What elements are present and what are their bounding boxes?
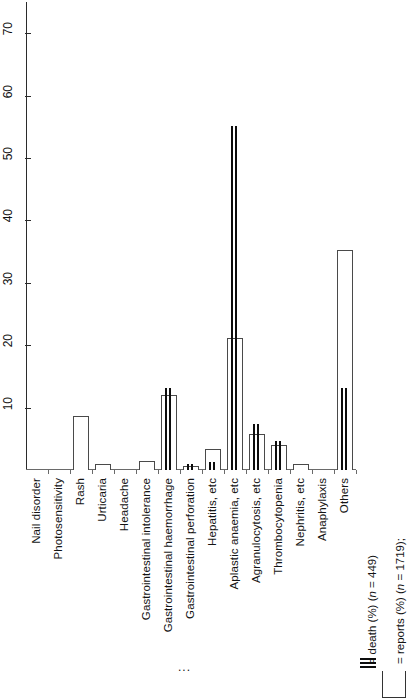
- bar-slot-7: [180, 2, 202, 470]
- bar-slot-12: [290, 2, 312, 470]
- category-tick-0: [48, 470, 49, 474]
- bar-slot-3: [92, 2, 114, 470]
- bar-death-14-d1: [341, 388, 343, 470]
- bar-slot-2: [70, 2, 92, 470]
- chart-legend: = reports (%) (n = 1719); = death (%) (n…: [354, 300, 412, 664]
- bar-slot-11: [268, 2, 290, 470]
- bar-death-14-d2: [345, 388, 347, 470]
- category-label-14: Others: [339, 478, 351, 513]
- category-label-10: Agranulocytosis, etc: [251, 478, 263, 583]
- bar-slot-9: [224, 2, 246, 470]
- category-label-4: Headache: [119, 478, 131, 531]
- category-tick-1: [70, 470, 71, 474]
- value-tick-label-20: 20: [2, 334, 22, 347]
- category-tick-2: [92, 470, 93, 474]
- category-label-11: Thrombocytopenia: [273, 478, 285, 575]
- category-tick-3: [114, 470, 115, 474]
- bar-slot-4: [114, 2, 136, 470]
- bar-slot-14: [334, 2, 356, 470]
- bar-death-10-d1: [253, 424, 255, 470]
- category-tick-12: [312, 470, 313, 474]
- category-label-7: Gastrointestinal perforation: [185, 478, 197, 619]
- category-label-13: Anaphylaxis: [317, 478, 329, 541]
- legend-entry-reports: = reports (%) (n = 1719);: [395, 538, 407, 664]
- category-label-3: Urticaria: [97, 478, 109, 522]
- bar-slot-6: [158, 2, 180, 470]
- bar-death-7-d2: [191, 464, 193, 470]
- value-tick-label-30: 30: [2, 272, 22, 285]
- category-label-6: Gastrointestinal haemorrhage: [163, 478, 175, 632]
- value-tick-label-60: 60: [2, 85, 22, 98]
- bar-reports-5: [139, 461, 156, 470]
- category-label-2: Rash: [75, 478, 87, 505]
- category-tick-6: [180, 470, 181, 474]
- category-label-12: Nephritis, etc: [295, 478, 307, 547]
- bar-slot-5: [136, 2, 158, 470]
- bar-reports-12: [293, 464, 310, 470]
- plot-area: 10203040506070: [26, 2, 356, 470]
- legend-swatch-double-line-icon: [360, 658, 376, 660]
- axis-ellipsis: ...: [178, 660, 191, 674]
- bar-reports-2: [73, 416, 90, 470]
- bar-death-9-d2: [235, 126, 237, 470]
- bar-death-10-d2: [257, 424, 259, 470]
- bar-slot-1: [48, 2, 70, 470]
- bar-death-8-d1: [209, 462, 211, 470]
- category-labels: Nail disorderPhotosensitivityRashUrticar…: [26, 478, 356, 663]
- bar-slot-8: [202, 2, 224, 470]
- bar-slot-10: [246, 2, 268, 470]
- category-label-5: Gastrointestinal intolerance: [141, 478, 153, 620]
- bar-slot-0: [26, 2, 48, 470]
- value-tick-label-70: 70: [2, 22, 22, 35]
- category-tick-11: [290, 470, 291, 474]
- value-tick-label-50: 50: [2, 147, 22, 160]
- bar-death-11-d2: [279, 441, 281, 470]
- bar-death-6-d2: [169, 388, 171, 470]
- category-tick-8: [224, 470, 225, 474]
- category-tick-9: [246, 470, 247, 474]
- category-tick-4: [136, 470, 137, 474]
- bar-death-9-d1: [231, 126, 233, 470]
- category-label-9: Aplastic anaemia, etc: [229, 478, 241, 589]
- category-label-0: Nail disorder: [31, 478, 43, 544]
- value-tick-label-40: 40: [2, 209, 22, 222]
- legend-swatch-open-box-icon: [382, 671, 406, 698]
- bar-death-11-d1: [275, 441, 277, 470]
- category-tick-5: [158, 470, 159, 474]
- value-tick-label-10: 10: [2, 397, 22, 410]
- category-tick-10: [268, 470, 269, 474]
- bar-slot-13: [312, 2, 334, 470]
- bar-death-8-d2: [213, 462, 215, 470]
- bar-death-6-d1: [165, 388, 167, 470]
- bar-death-7-d1: [187, 464, 189, 470]
- category-tick-13: [334, 470, 335, 474]
- bar-reports-3: [95, 464, 112, 470]
- category-label-8: Hepatitis, etc: [207, 478, 219, 546]
- legend-entry-death: = death (%) (n = 449): [367, 555, 379, 664]
- category-label-1: Photosensitivity: [53, 478, 65, 560]
- category-tick-7: [202, 470, 203, 474]
